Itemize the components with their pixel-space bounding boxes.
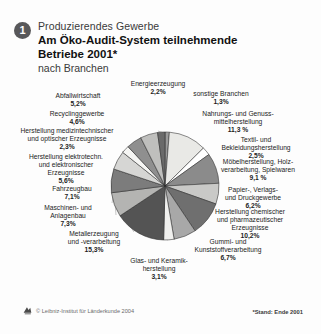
label-elektro-text: Herstellung elektrotechn. und elektronis… [29, 153, 103, 176]
label-fahrzeugbau-value: 7,1% [38, 193, 106, 201]
ifl-logo-icon [22, 305, 33, 316]
label-maschinen-value: 7,3% [30, 220, 106, 228]
label-chemie: Herstellung chemischer und pharmazeutisc… [198, 208, 302, 240]
label-glas: Glas- und Keramik- herstellung3,1% [118, 257, 200, 281]
label-fahrzeugbau-text: Fahrzeugbau [52, 185, 91, 192]
footnote-stand: *Stand: Ende 2001 [252, 309, 303, 315]
credit-text: © Leibniz-Institut für Länderkunde 2004 [36, 308, 134, 314]
label-maschinen: Maschinen- und Anlagenbau7,3% [30, 204, 106, 228]
label-sonstige-branchen: sonstige Branchen1,3% [184, 90, 258, 106]
label-papier: Papier-, Verlags- und Druckgewerbe6,2% [206, 186, 300, 210]
label-chemie-text: Herstellung chemischer und pharmazeutisc… [215, 208, 285, 231]
label-metall-text: Metallerzeugung und -verarbeitung [68, 230, 120, 245]
label-fahrzeugbau: Fahrzeugbau7,1% [38, 185, 106, 201]
label-metall-value: 15,3% [54, 246, 134, 254]
label-medizintechnik-text: Herstellung medizintechnischer und optis… [21, 127, 114, 142]
label-papier-text: Papier-, Verlags- und Druckgewerbe [225, 186, 281, 201]
label-energieerzeugung-text: Energieerzeugung [131, 80, 186, 87]
label-medizintechnik-value: 2,3% [8, 143, 126, 151]
label-maschinen-text: Maschinen- und Anlagenbau [44, 204, 92, 219]
infographic-page: 1 Produzierendes Gewerbe Am Öko-Audit-Sy… [0, 0, 321, 334]
label-textil-text: Textil- und Bekleidungsherstellung [221, 136, 290, 151]
label-sonstige-branchen-value: 1,3% [184, 98, 258, 106]
label-abfall-text: Abfallwirtschaft [56, 92, 101, 99]
label-sonstige-branchen-text: sonstige Branchen [193, 90, 248, 97]
label-moebel-value: 9,1 % [204, 174, 312, 182]
label-nahrungs-value: 11,3 % [192, 126, 284, 134]
label-glas-text: Glas- und Keramik- herstellung [130, 257, 188, 272]
label-glas-value: 3,1% [118, 273, 200, 281]
label-abfall: Abfallwirtschaft5,2% [42, 92, 114, 108]
label-nahrungs-text: Nahrungs- und Genuss- mittelherstellung [202, 110, 273, 125]
label-recycling-value: 4,6% [36, 118, 118, 126]
label-recycling: Recyclinggewerbe4,6% [36, 110, 118, 126]
label-recycling-text: Recyclinggewerbe [50, 110, 105, 117]
copyright-credit: © Leibniz-Institut für Länderkunde 2004 [22, 305, 134, 316]
label-nahrungs: Nahrungs- und Genuss- mittelherstellung1… [192, 110, 284, 134]
label-abfall-value: 5,2% [42, 100, 114, 108]
label-moebel-text: Möbelherstellung, Holz- verarbeitung, Sp… [221, 158, 295, 173]
label-textil: Textil- und Bekleidungsherstellung2,5% [206, 136, 306, 160]
label-elektro-value: 5,6% [18, 177, 114, 185]
label-medizintechnik: Herstellung medizintechnischer und optis… [8, 127, 126, 151]
label-gummi-text: Gummi- und Kunststoffverarbeitung [195, 238, 262, 253]
label-metall: Metallerzeugung und -verarbeitung15,3% [54, 230, 134, 254]
label-moebel: Möbelherstellung, Holz- verarbeitung, Sp… [204, 158, 312, 182]
label-elektro: Herstellung elektrotechn. und elektronis… [18, 153, 114, 185]
